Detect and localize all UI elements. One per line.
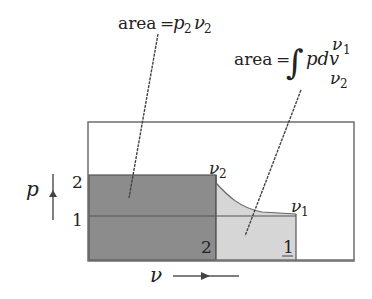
svg-text:2: 2 — [219, 167, 227, 181]
svg-text:ν: ν — [209, 158, 219, 178]
state-2-label: 2 — [201, 237, 212, 257]
svg-text:ν: ν — [330, 68, 340, 88]
label-area-p2v2: area = p 2 ν 2 — [118, 12, 212, 36]
svg-text:ν: ν — [291, 196, 301, 216]
state-1-label: 1 — [283, 237, 294, 257]
p-tick-2: 2 — [72, 172, 83, 192]
axis-label-v: ν — [150, 263, 162, 287]
svg-text:2: 2 — [184, 22, 192, 36]
leader-line-rect — [129, 34, 158, 198]
svg-text:area: area — [234, 49, 272, 69]
svg-text:2: 2 — [204, 22, 212, 36]
svg-text:area: area — [118, 13, 156, 33]
label-area-integral: area = ∫ pdv ν 1 ν 2 — [234, 34, 351, 91]
v-arrow-head-icon — [201, 272, 210, 280]
pv-diagram: area = p 2 ν 2 area = ∫ pdv ν 1 ν 2 p 2 … — [0, 0, 372, 299]
p-arrow-head-icon — [49, 190, 57, 197]
axis-label-p: p — [26, 177, 39, 201]
svg-text:∫: ∫ — [286, 42, 304, 82]
svg-text:1: 1 — [301, 205, 309, 219]
label-v1: ν 1 — [291, 196, 309, 219]
svg-text:2: 2 — [340, 77, 348, 91]
area-p2v2-region — [89, 175, 216, 260]
label-v2: ν 2 — [209, 158, 227, 181]
svg-text:ν: ν — [332, 34, 342, 54]
svg-text:1: 1 — [343, 43, 351, 57]
p-tick-1: 1 — [72, 210, 83, 230]
